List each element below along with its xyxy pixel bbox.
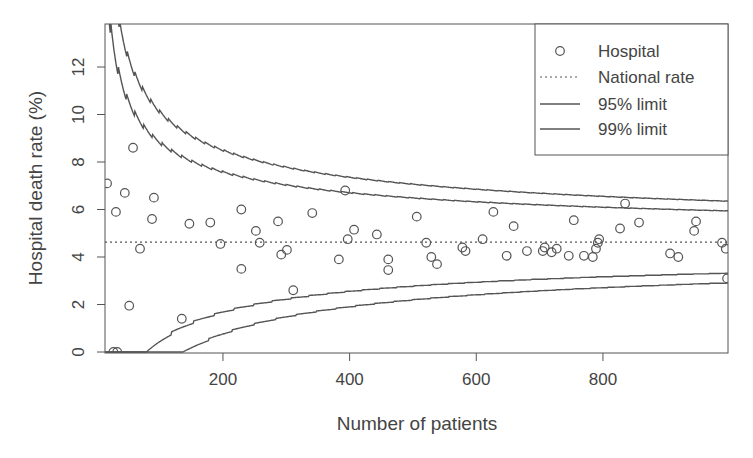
hospital-point bbox=[523, 247, 532, 256]
y-tick-label: 8 bbox=[69, 157, 88, 166]
legend-99-label: 99% limit bbox=[598, 120, 667, 139]
hospital-point bbox=[433, 260, 442, 269]
legend-hospital-label: Hospital bbox=[598, 42, 659, 61]
legend-95-label: 95% limit bbox=[598, 95, 667, 114]
hospital-point bbox=[148, 215, 157, 224]
hospital-point bbox=[255, 238, 264, 247]
hospital-points bbox=[103, 143, 732, 356]
hospital-point bbox=[185, 219, 194, 228]
hospital-point bbox=[690, 227, 699, 236]
hospital-point bbox=[206, 218, 215, 227]
hospital-point bbox=[422, 238, 431, 247]
y-tick-label: 0 bbox=[69, 347, 88, 356]
hospital-point bbox=[412, 212, 421, 221]
hospital-point bbox=[125, 301, 134, 310]
y-tick-label: 2 bbox=[69, 300, 88, 309]
hospital-point bbox=[177, 314, 186, 323]
x-tick-label: 800 bbox=[589, 370, 617, 389]
hospital-point bbox=[103, 179, 112, 188]
x-tick-label: 200 bbox=[209, 370, 237, 389]
hospital-point bbox=[216, 240, 225, 249]
hospital-point bbox=[635, 218, 644, 227]
hospital-point bbox=[384, 266, 393, 275]
y-axis: 024681012 bbox=[69, 58, 105, 357]
95-limit-lower bbox=[105, 273, 729, 352]
hospital-point bbox=[289, 286, 298, 295]
hospital-point bbox=[120, 189, 129, 198]
y-tick-label: 4 bbox=[69, 252, 88, 261]
hospital-point bbox=[564, 252, 573, 261]
legend-national-label: National rate bbox=[598, 68, 694, 87]
hospital-point bbox=[129, 143, 138, 152]
x-tick-label: 400 bbox=[335, 370, 363, 389]
hospital-point bbox=[237, 265, 246, 274]
hospital-point bbox=[150, 193, 159, 202]
x-axis: 200400600800 bbox=[209, 353, 617, 389]
hospital-point bbox=[674, 253, 683, 262]
funnel-plot: 200400600800 024681012 Number of patient… bbox=[0, 0, 753, 458]
hospital-point bbox=[478, 235, 487, 244]
hospital-point bbox=[723, 274, 732, 283]
y-tick-label: 6 bbox=[69, 205, 88, 214]
hospital-point bbox=[592, 244, 601, 253]
hospital-point bbox=[350, 225, 359, 234]
hospital-point bbox=[308, 209, 317, 218]
hospital-point bbox=[373, 230, 382, 239]
hospital-point bbox=[237, 205, 246, 214]
hospital-point bbox=[616, 224, 625, 233]
hospital-point bbox=[341, 186, 350, 195]
hospital-point bbox=[384, 255, 393, 264]
y-tick-label: 10 bbox=[69, 105, 88, 124]
hospital-point bbox=[136, 244, 145, 253]
hospital-point bbox=[427, 253, 436, 262]
hospital-point bbox=[621, 199, 630, 208]
hospital-point bbox=[502, 252, 511, 261]
hospital-point bbox=[252, 227, 261, 236]
hospital-point bbox=[589, 253, 598, 262]
y-tick-label: 12 bbox=[69, 58, 88, 77]
hospital-point bbox=[489, 208, 498, 217]
y-axis-title: Hospital death rate (%) bbox=[25, 91, 46, 285]
x-axis-title: Number of patients bbox=[337, 413, 498, 434]
hospital-point bbox=[666, 249, 675, 258]
hospital-point bbox=[283, 246, 292, 255]
hospital-point bbox=[335, 255, 344, 264]
99-limit-lower bbox=[105, 283, 729, 352]
hospital-point bbox=[570, 216, 579, 225]
hospital-point bbox=[277, 250, 286, 259]
hospital-point bbox=[509, 222, 518, 231]
hospital-point bbox=[274, 217, 283, 226]
hospital-point bbox=[112, 208, 121, 217]
legend: Hospital National rate 95% limit 99% lim… bbox=[535, 24, 728, 155]
x-tick-label: 600 bbox=[462, 370, 490, 389]
hospital-point bbox=[692, 217, 701, 226]
hospital-point bbox=[343, 235, 352, 244]
hospital-point bbox=[580, 252, 589, 261]
